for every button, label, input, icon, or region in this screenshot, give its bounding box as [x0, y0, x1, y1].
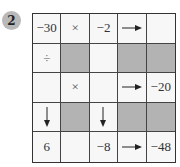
multiply-icon: ×: [71, 20, 78, 36]
arrow-down-icon: [43, 107, 51, 127]
arrow-right-icon: [122, 24, 142, 32]
cell-r2-c3: [118, 73, 146, 103]
cell-r0-c4[interactable]: [147, 14, 175, 44]
cell-r3-c2: [90, 103, 118, 133]
cell-value: 6: [43, 139, 50, 155]
cell-r3-c3-shaded: [118, 103, 146, 133]
cell-r4-c3: [118, 132, 146, 162]
cell-value: −48: [151, 139, 171, 155]
cell-r3-c4-shaded: [147, 103, 175, 133]
arrow-right-icon: [122, 83, 142, 91]
cell-r1-c0: ÷: [33, 44, 61, 74]
cell-r3-c0: [33, 103, 61, 133]
cell-r0-c2: −2: [90, 14, 118, 44]
cell-r1-c2[interactable]: [90, 44, 118, 74]
cell-value: −20: [151, 79, 171, 95]
cell-r4-c1[interactable]: [61, 132, 89, 162]
cell-value: −30: [37, 20, 57, 36]
cell-r1-c3-shaded: [118, 44, 146, 74]
cell-r0-c3: [118, 14, 146, 44]
puzzle-grid: −30 × −2 ÷ × −20 6 −8 −48: [32, 13, 176, 163]
puzzle-number: 2: [7, 14, 15, 28]
cell-r4-c0: 6: [33, 132, 61, 162]
cell-r1-c4-shaded: [147, 44, 175, 74]
cell-r2-c0[interactable]: [33, 73, 61, 103]
cell-r0-c0: −30: [33, 14, 61, 44]
multiply-icon: ×: [71, 79, 78, 95]
arrow-right-icon: [122, 143, 142, 151]
divide-icon: ÷: [43, 50, 50, 66]
cell-r1-c1-shaded: [61, 44, 89, 74]
cell-r4-c2: −8: [90, 132, 118, 162]
arrow-down-icon: [99, 107, 107, 127]
cell-r0-c1: ×: [61, 14, 89, 44]
cell-r4-c4: −48: [147, 132, 175, 162]
cell-value: −8: [97, 139, 111, 155]
cell-r2-c1: ×: [61, 73, 89, 103]
cell-r3-c1-shaded: [61, 103, 89, 133]
cell-value: −2: [97, 20, 111, 36]
cell-r2-c2[interactable]: [90, 73, 118, 103]
puzzle-number-badge: 2: [2, 11, 21, 30]
cell-r2-c4: −20: [147, 73, 175, 103]
